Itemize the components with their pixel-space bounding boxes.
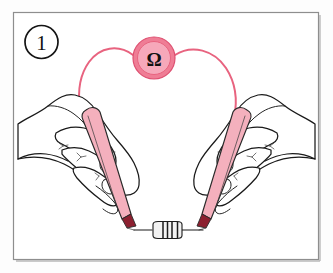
- ohm-symbol: Ω: [146, 49, 161, 70]
- step-number-badge: 1: [25, 26, 58, 59]
- ohm-meter-badge: Ω: [133, 37, 175, 79]
- step-badge-number: 1: [36, 31, 47, 55]
- instructional-diagram: Measuring resistance of a resistor with …: [0, 0, 333, 273]
- illustration-root: Measuring resistance of a resistor with …: [0, 0, 333, 273]
